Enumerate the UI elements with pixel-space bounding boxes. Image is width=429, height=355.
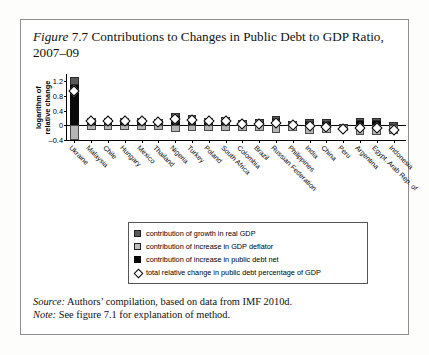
x-tick-mark [125, 140, 126, 143]
x-tick-mark [377, 140, 378, 143]
bar-segment-deflator [70, 125, 79, 140]
bar-segment-growth [70, 77, 79, 85]
bar-group [120, 74, 129, 140]
x-tick-mark [142, 140, 143, 143]
x-axis-line [66, 140, 406, 141]
x-tick-mark [91, 140, 92, 143]
note-prefix: Note: [33, 309, 56, 320]
chart-legend: contribution of growth in real GDP contr… [128, 222, 368, 284]
source-note-block: Source: Authors’ compilation, based on d… [33, 295, 383, 321]
bar-group [389, 74, 398, 140]
legend-label-growth: contribution of growth in real GDP [146, 229, 256, 238]
deflator-swatch-icon [134, 243, 141, 250]
bar-group [339, 74, 348, 140]
bar-group [372, 74, 381, 140]
legend-label-deflator: contribution of increase in GDP deflator [146, 242, 273, 251]
x-tick-mark [226, 140, 227, 143]
y-tick-label: 0.8 [53, 92, 63, 101]
debt-swatch-icon [134, 256, 141, 263]
bar-segment-growth [356, 118, 365, 121]
bar-group [188, 74, 197, 140]
bar-group [255, 74, 264, 140]
bar-group [154, 74, 163, 140]
source-prefix: Source: [33, 296, 65, 307]
chart-area: logarithm of relative change 1.20.80.40–… [28, 70, 406, 220]
bar-group [70, 74, 79, 140]
x-tick-mark [175, 140, 176, 143]
bar-group [356, 74, 365, 140]
legend-label-debt: contribution of increase in public debt … [146, 255, 279, 264]
source-line: Source: Authors’ compilation, based on d… [33, 295, 383, 308]
x-axis-label: Turkey [186, 144, 206, 164]
bar-segment-deflator [188, 125, 197, 131]
figure-page: Figure 7.7 Contributions to Changes in P… [0, 0, 429, 355]
bar-group [322, 74, 331, 140]
x-tick-mark [74, 140, 75, 143]
bar-group [171, 74, 180, 140]
growth-swatch-icon [134, 230, 141, 237]
plot-region: 1.20.80.40–0.4 UkraineMalaysiaChileHunga… [66, 74, 402, 140]
x-tick-mark [343, 140, 344, 143]
y-tick-label: –0.4 [49, 136, 63, 145]
bar-group [104, 74, 113, 140]
bar-group [288, 74, 297, 140]
legend-label-total: total relative change in public debt per… [146, 268, 321, 277]
bar-segment-growth [372, 118, 381, 121]
x-tick-mark [326, 140, 327, 143]
figure-label: Figure [33, 29, 68, 44]
bar-group [137, 74, 146, 140]
y-axis-label-text: logarithm of relative change [35, 73, 52, 143]
legend-item-total: total relative change in public debt per… [134, 266, 362, 279]
bar-segment-deflator [171, 125, 180, 131]
x-axis-label: China [320, 144, 338, 162]
legend-item-deflator: contribution of increase in GDP deflator [134, 240, 362, 253]
x-tick-mark [158, 140, 159, 143]
x-tick-mark [108, 140, 109, 143]
note-line: Note: See figure 7.1 for explanation of … [33, 308, 383, 321]
bar-series-group [66, 74, 402, 140]
bar-group [272, 74, 281, 140]
figure-number: 7.7 [72, 29, 88, 44]
bar-group [204, 74, 213, 140]
x-tick-mark [293, 140, 294, 143]
y-tick-label: 0.4 [53, 106, 63, 115]
bar-group [221, 74, 230, 140]
legend-item-growth: contribution of growth in real GDP [134, 227, 362, 240]
x-tick-mark [360, 140, 361, 143]
bar-group [305, 74, 314, 140]
bar-group [87, 74, 96, 140]
page-title: Figure 7.7 Contributions to Changes in P… [33, 29, 393, 60]
x-tick-mark [242, 140, 243, 143]
y-tick-label: 0 [59, 121, 63, 130]
x-tick-mark [192, 140, 193, 143]
x-axis-label: Peru [337, 144, 352, 159]
y-axis-label: logarithm of relative change [34, 75, 54, 145]
bar-group [238, 74, 247, 140]
legend-item-debt: contribution of increase in public debt … [134, 253, 362, 266]
source-text: Authors’ compilation, based on data from… [67, 296, 292, 307]
x-tick-mark [209, 140, 210, 143]
diamond-marker-icon [134, 269, 141, 276]
x-tick-mark [259, 140, 260, 143]
x-tick-mark [276, 140, 277, 143]
note-text: See figure 7.1 for explanation of method… [59, 309, 230, 320]
x-tick-mark [394, 140, 395, 143]
x-tick-mark [310, 140, 311, 143]
y-tick-label: 1.2 [53, 77, 63, 86]
